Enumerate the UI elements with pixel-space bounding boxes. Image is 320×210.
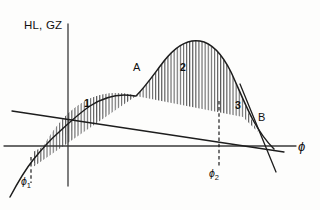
figure-canvas xyxy=(0,0,320,210)
phi2-label-subscript: 2 xyxy=(215,173,219,182)
x-axis-label: ϕ xyxy=(298,140,305,153)
hl-curve xyxy=(10,41,274,197)
region-label-2: 2 xyxy=(180,62,186,73)
point-label-b: B xyxy=(258,112,265,123)
shaded-region-2 xyxy=(136,41,243,117)
phi1-label-subscript: 1 xyxy=(27,181,31,190)
phi2-label: ϕ2 xyxy=(209,168,219,182)
region-label-3: 3 xyxy=(235,100,241,111)
region-label-1: 1 xyxy=(84,98,90,109)
secondary-line xyxy=(240,84,276,172)
y-axis-label: HL, GZ xyxy=(24,20,62,32)
figure-container: HL, GZ ϕ 1 2 3 A B ϕ1 ϕ2 xyxy=(0,0,320,210)
point-label-a: A xyxy=(133,62,140,73)
phi1-label: ϕ1 xyxy=(21,176,31,190)
